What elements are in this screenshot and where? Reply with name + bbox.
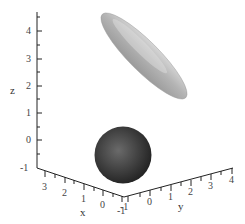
x-axis-label: x bbox=[80, 206, 86, 218]
sphere bbox=[95, 127, 152, 184]
y-tick-3: 3 bbox=[208, 180, 213, 191]
ellipsoid bbox=[92, 4, 197, 109]
z-axis-label: z bbox=[10, 84, 15, 96]
y-tick-0: 0 bbox=[147, 196, 152, 207]
x-tick-1: 1 bbox=[81, 193, 86, 204]
z-tick-4: 4 bbox=[26, 25, 31, 36]
y-tick-4: 4 bbox=[229, 174, 234, 185]
y-tick-neg1: -1 bbox=[120, 201, 128, 212]
z-tick-0: 0 bbox=[26, 134, 31, 145]
z-tick-2: 2 bbox=[26, 80, 31, 91]
z-tick-neg1: -1 bbox=[20, 162, 28, 173]
x-tick-3: 3 bbox=[42, 181, 47, 192]
x-tick-0: 0 bbox=[100, 199, 105, 210]
z-tick-3: 3 bbox=[26, 53, 31, 64]
y-tick-2: 2 bbox=[188, 186, 193, 197]
y-axis-label: y bbox=[178, 200, 184, 212]
z-axis: 4 3 2 1 0 -1 z bbox=[10, 12, 42, 173]
x-tick-2: 2 bbox=[62, 187, 67, 198]
3d-plot: 4 3 2 1 0 -1 z 3 2 1 0 -1 x bbox=[0, 0, 245, 224]
y-tick-1: 1 bbox=[168, 191, 173, 202]
z-tick-1: 1 bbox=[26, 107, 31, 118]
